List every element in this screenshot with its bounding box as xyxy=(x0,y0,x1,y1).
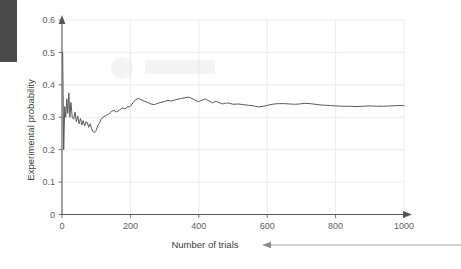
annotation-arrowhead xyxy=(262,242,271,248)
y-tick-label: 0.4 xyxy=(42,80,55,90)
y-tick-label: 0.6 xyxy=(42,15,55,25)
y-axis-tick-labels: 00.10.20.30.40.50.6 xyxy=(42,15,55,220)
y-tick-label: 0.2 xyxy=(42,145,55,155)
y-tick-label: 0 xyxy=(50,210,55,220)
y-tick-label: 0.3 xyxy=(42,112,55,122)
y-tick-label: 0.1 xyxy=(42,177,55,187)
y-axis-title: Experimental probability xyxy=(25,79,36,181)
experimental-probability-chart: 00.10.20.30.40.50.6 02004006008001000 Ex… xyxy=(0,0,461,269)
annotation-arrow xyxy=(262,242,461,248)
x-axis-title: Number of trials xyxy=(171,239,238,250)
chart-axes xyxy=(59,15,412,218)
chart-gridlines xyxy=(62,20,404,215)
x-tick-label: 200 xyxy=(123,221,138,231)
x-axis-arrowhead xyxy=(403,211,412,218)
y-axis-arrowhead xyxy=(59,15,66,24)
x-tick-label: 0 xyxy=(59,221,64,231)
y-tick-label: 0.5 xyxy=(42,48,55,58)
x-axis-tick-labels: 02004006008001000 xyxy=(59,221,414,231)
chart-page: 00.10.20.30.40.50.6 02004006008001000 Ex… xyxy=(0,0,461,269)
x-tick-label: 1000 xyxy=(394,221,414,231)
x-tick-label: 800 xyxy=(328,221,343,231)
x-tick-label: 400 xyxy=(191,221,206,231)
chart-tick-marks xyxy=(59,20,405,218)
x-tick-label: 600 xyxy=(260,221,275,231)
watermark xyxy=(111,57,215,79)
